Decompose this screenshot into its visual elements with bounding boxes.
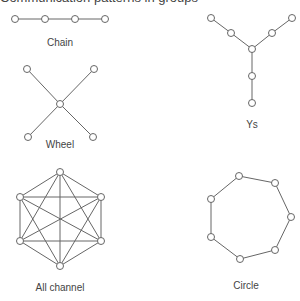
node-circle-icon xyxy=(57,169,64,176)
edge xyxy=(60,172,101,197)
node-circle-icon xyxy=(249,100,256,107)
edge xyxy=(28,104,60,137)
network-label-circle: Circle xyxy=(233,280,259,291)
network-wheel: Wheel xyxy=(24,66,98,151)
node-circle-icon xyxy=(90,134,97,141)
network-label-all-channel: All channel xyxy=(36,282,85,293)
node-circle-icon xyxy=(57,101,64,108)
node-circle-icon xyxy=(236,173,243,180)
node-circle-icon xyxy=(289,15,296,22)
node-circle-icon xyxy=(72,16,79,23)
network-label-ys: Ys xyxy=(246,119,258,130)
node-circle-icon xyxy=(237,256,244,263)
node-circle-icon xyxy=(57,263,64,270)
node-circle-icon xyxy=(288,214,295,221)
network-label-chain: Chain xyxy=(47,37,73,48)
node-circle-icon xyxy=(17,238,24,245)
node-circle-icon xyxy=(272,247,279,254)
node-circle-icon xyxy=(272,180,279,187)
node-circle-icon xyxy=(17,194,24,201)
edge xyxy=(20,241,60,266)
edge xyxy=(275,217,291,250)
network-chain: Chain xyxy=(12,16,109,49)
network-ys: Ys xyxy=(208,15,296,131)
node-circle-icon xyxy=(269,30,276,37)
edge xyxy=(20,172,60,197)
edge xyxy=(275,183,291,217)
node-circle-icon xyxy=(228,30,235,37)
network-label-wheel: Wheel xyxy=(46,139,74,150)
node-circle-icon xyxy=(208,234,215,241)
network-all-channel: All channel xyxy=(17,169,105,294)
node-circle-icon xyxy=(98,238,105,245)
node-circle-icon xyxy=(249,46,256,53)
node-circle-icon xyxy=(208,196,215,203)
node-circle-icon xyxy=(98,194,105,201)
edge xyxy=(239,176,275,183)
network-circle: Circle xyxy=(208,173,295,292)
node-circle-icon xyxy=(25,134,32,141)
node-circle-icon xyxy=(91,66,98,73)
node-circle-icon xyxy=(42,16,49,23)
edge xyxy=(60,104,93,137)
node-circle-icon xyxy=(102,16,109,23)
node-circle-icon xyxy=(208,15,215,22)
edge xyxy=(240,250,275,259)
node-circle-icon xyxy=(24,66,31,73)
edge xyxy=(60,69,94,104)
edge xyxy=(211,237,240,259)
edge xyxy=(211,176,239,199)
edge xyxy=(60,241,101,266)
edge xyxy=(27,69,60,104)
node-circle-icon xyxy=(12,16,19,23)
node-circle-icon xyxy=(249,73,256,80)
communication-networks-diagram: ChainYsWheelAll channelCircle xyxy=(0,0,300,301)
